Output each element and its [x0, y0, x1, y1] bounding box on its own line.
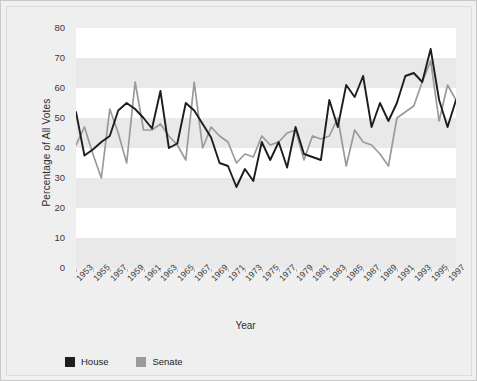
chart-frame: Percentage of All Votes 0102030405060708… [0, 0, 477, 381]
legend-swatch-senate [136, 357, 146, 367]
y-tick-label: 80 [39, 23, 65, 33]
legend-swatch-house [65, 357, 75, 367]
legend-label-senate: Senate [152, 356, 182, 367]
y-tick-label: 0 [39, 263, 65, 273]
y-tick-label: 20 [39, 203, 65, 213]
y-tick-label: 30 [39, 173, 65, 183]
plot-area [76, 28, 456, 268]
x-tick-mark [448, 269, 449, 272]
chart-legend: House Senate [65, 356, 183, 367]
y-tick-label: 40 [39, 143, 65, 153]
x-tick-mark [296, 269, 297, 272]
legend-label-house: House [81, 356, 108, 367]
house-line [76, 49, 456, 187]
x-tick-mark [144, 269, 145, 272]
y-tick-label: 70 [39, 53, 65, 63]
y-tick-label: 50 [39, 113, 65, 123]
senate-line [76, 61, 456, 178]
y-tick-label: 60 [39, 83, 65, 93]
x-axis-title: Year [7, 320, 477, 331]
chart-inner-panel: Percentage of All Votes 0102030405060708… [6, 6, 472, 376]
legend-item-house: House [65, 356, 108, 367]
y-tick-label: 10 [39, 233, 65, 243]
line-chart-svg [76, 28, 456, 268]
legend-item-senate: Senate [136, 356, 182, 367]
